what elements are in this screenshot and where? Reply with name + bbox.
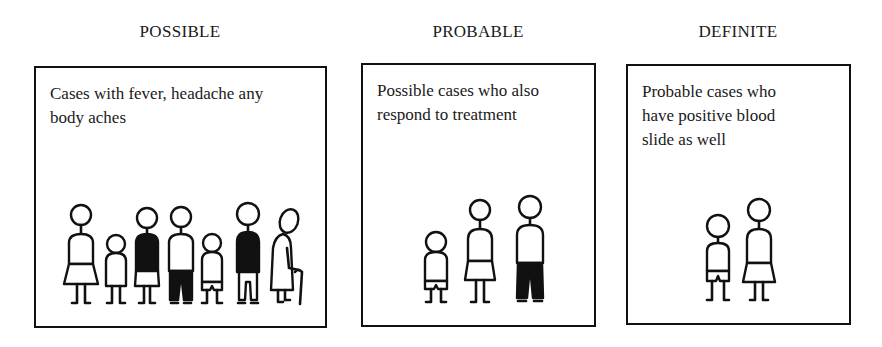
elderly-with-cane-figure-icon [271,207,302,304]
heading-possible: POSSIBLE [130,22,230,42]
woman-figure-icon [64,205,98,303]
panel-definite: Probable cases who have positive blood s… [626,64,851,325]
woman-dark-top-figure-icon [135,208,159,303]
man-dark-trousers-figure-icon [169,207,193,303]
woman-figure-icon [465,200,495,302]
man-dark-top-figure-icon [237,203,259,303]
man-dark-trousers-figure-icon [517,196,543,301]
woman-figure-icon [743,199,775,300]
panel-possible: Cases with fever, headache any body ache… [34,66,327,328]
people-group-definite-icon [628,66,853,327]
child-figure-icon [707,215,729,300]
heading-definite: DEFINITE [678,22,798,42]
child-figure-icon [202,234,222,303]
child-figure-icon [106,235,126,303]
people-group-possible-icon [36,68,329,330]
heading-probable: PROBABLE [418,22,538,42]
child-figure-icon [425,232,447,302]
panel-probable: Possible cases who also respond to treat… [361,63,596,327]
people-group-probable-icon [363,65,598,329]
